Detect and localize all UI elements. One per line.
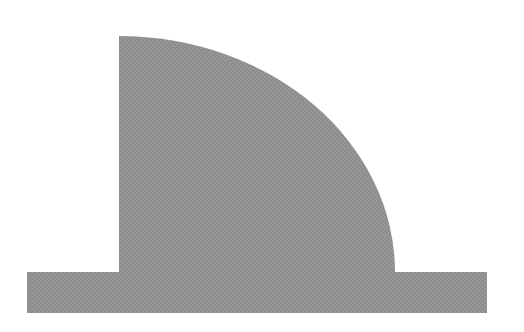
base-bar-shape — [27, 272, 487, 313]
figure-canvas — [0, 0, 524, 332]
